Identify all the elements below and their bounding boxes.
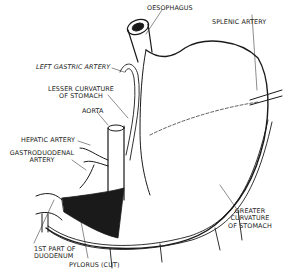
label-left-gastric-artery: LEFT GASTRIC ARTERY <box>36 64 110 71</box>
label-lesser-curvature: LESSER CURVATURE OF STOMACH <box>45 86 117 101</box>
label-splenic-artery: SPLENIC ARTERY <box>212 19 266 26</box>
label-aorta: AORTA <box>82 108 104 115</box>
label-greater-curvature: GREATER CURVATURE OF STOMACH <box>220 208 280 230</box>
label-gastroduodenal-artery: GASTRODUODENAL ARTERY <box>6 150 78 165</box>
pylorus-cut <box>62 188 124 238</box>
label-oesophagus: OESOPHAGUS <box>147 5 193 12</box>
label-duodenum: 1ST PART OF DUODENUM <box>34 246 76 261</box>
stomach-lesser-curvature <box>140 50 150 195</box>
hepatic-artery <box>80 148 108 188</box>
label-pylorus: PYLORUS (CUT) <box>69 262 120 269</box>
stomach-diagram: OESOPHAGUS SPLENIC ARTERY LEFT GASTRIC A… <box>0 0 286 273</box>
label-hepatic-artery: HEPATIC ARTERY <box>21 137 75 144</box>
